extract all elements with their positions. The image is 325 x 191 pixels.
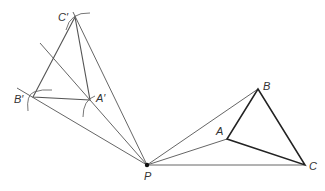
dilation-diagram: P A B C A′ B′ C′ <box>0 0 325 191</box>
arc-a-prime <box>83 96 95 117</box>
ray-p-c-prime <box>73 12 147 165</box>
point-p <box>145 163 149 167</box>
triangle-abc <box>227 89 305 165</box>
diagram-canvas <box>0 0 325 191</box>
label-c-prime: C′ <box>58 11 68 23</box>
label-a: A <box>216 125 223 137</box>
ray-p-a <box>147 139 227 165</box>
ray-p-b <box>147 89 258 165</box>
label-b-prime: B′ <box>14 93 23 105</box>
label-b: B <box>263 80 270 92</box>
label-p: P <box>144 170 151 182</box>
label-a-prime: A′ <box>96 92 105 104</box>
label-c: C <box>309 160 317 172</box>
ray-p-a-prime <box>40 43 147 165</box>
arc-b-prime <box>28 90 52 111</box>
